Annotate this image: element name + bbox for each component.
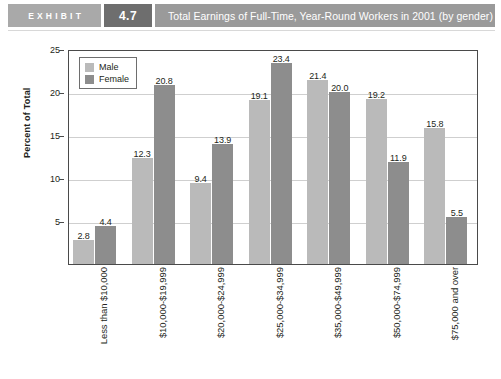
x-axis-label: $20,000-$24,999	[215, 267, 226, 338]
bar-value-label: 11.9	[390, 153, 406, 163]
legend-label-female: Female	[99, 74, 129, 84]
x-axis-label: $75,000 and over	[449, 267, 460, 340]
bar-value-label: 12.3	[134, 149, 151, 159]
x-axis-label: $50,000-$74,999	[391, 267, 402, 338]
bar-male	[132, 158, 153, 264]
y-tick-mark	[59, 179, 64, 180]
bar-group: 15.85.5	[420, 51, 479, 264]
x-axis-label: $35,000-$49,999	[332, 267, 343, 338]
bar-group: 19.211.9	[362, 51, 421, 264]
bar-female	[271, 63, 292, 264]
bar-male	[73, 240, 94, 264]
bar-male	[249, 100, 270, 264]
legend-swatch-female	[85, 75, 94, 84]
bar-value-label: 19.1	[251, 91, 268, 101]
y-tick-mark	[59, 136, 64, 137]
bar-female	[446, 217, 467, 264]
bar-group: 21.420.0	[303, 51, 362, 264]
bar-value-label: 20.0	[331, 83, 348, 93]
bar-group: 19.123.4	[245, 51, 304, 264]
legend-swatch-male	[85, 63, 94, 72]
legend-item-male: Male	[85, 62, 129, 72]
x-axis-label: Less than $10,000	[98, 267, 109, 344]
bar-value-label: 20.8	[156, 76, 173, 86]
bar-value-label: 9.4	[195, 174, 207, 184]
bar-value-label: 19.2	[368, 90, 385, 100]
bar-female	[95, 226, 116, 264]
bar-female	[329, 92, 350, 264]
bar-female	[388, 162, 409, 264]
bar-value-label: 2.8	[77, 231, 89, 241]
bar-value-label: 15.8	[426, 119, 443, 129]
bar-value-label: 4.4	[99, 217, 111, 227]
bar-male	[366, 99, 387, 264]
y-tick-mark	[59, 93, 64, 94]
bar-female	[154, 85, 175, 264]
y-axis-ticks: 510152025	[38, 50, 64, 265]
bar-male	[190, 183, 211, 264]
exhibit-title: Total Earnings of Full-Time, Year-Round …	[155, 4, 495, 27]
bar-female	[212, 144, 233, 264]
bar-value-label: 13.9	[214, 135, 231, 145]
y-tick-mark	[59, 222, 64, 223]
x-axis-label: $10,000-$19,999	[157, 267, 168, 338]
x-axis-labels: Less than $10,000$10,000-$19,999$20,000-…	[68, 267, 478, 375]
y-axis-title: Percent of Total	[22, 87, 32, 158]
legend: Male Female	[79, 57, 137, 89]
plot-area: 2.84.412.320.89.413.919.123.421.420.019.…	[68, 50, 478, 265]
bar-value-label: 23.4	[273, 54, 290, 64]
legend-label-male: Male	[99, 62, 119, 72]
bar-male	[307, 80, 328, 264]
exhibit-number: 4.7	[104, 4, 152, 27]
x-axis-label: $25,000-$34,999	[274, 267, 285, 338]
plot-frame: 2.84.412.320.89.413.919.123.421.420.019.…	[68, 50, 478, 265]
y-tick-mark	[59, 50, 64, 51]
exhibit-banner: EXHIBIT 4.7 Total Earnings of Full-Time,…	[8, 4, 495, 27]
legend-item-female: Female	[85, 74, 129, 84]
exhibit-label: EXHIBIT	[8, 4, 101, 27]
bar-group: 9.413.9	[186, 51, 245, 264]
exhibit-page: EXHIBIT 4.7 Total Earnings of Full-Time,…	[0, 0, 501, 379]
header-divider	[8, 30, 495, 31]
bar-value-label: 21.4	[309, 71, 326, 81]
bar-value-label: 5.5	[451, 208, 463, 218]
bar-male	[424, 128, 445, 264]
